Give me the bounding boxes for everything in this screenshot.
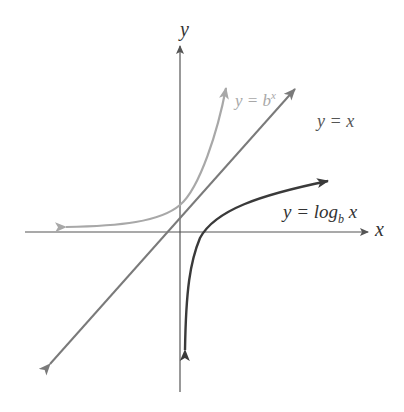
identity-label: y = x: [315, 111, 354, 131]
x-axis-label: x: [374, 218, 384, 240]
exponential-curve: [66, 88, 226, 227]
logarithm-label: y = logb x: [281, 201, 358, 226]
function-graph: x y y = bx y = x y = logb x: [0, 0, 404, 412]
y-axis-label: y: [178, 18, 189, 41]
exponential-label: y = bx: [233, 89, 276, 110]
